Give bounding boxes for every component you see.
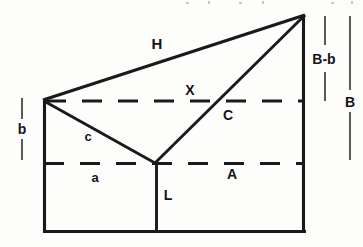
geometry-diagram: b B-b B H X C c a A L: [0, 0, 363, 247]
label-a: a: [91, 170, 99, 185]
interior-lines: [44, 15, 305, 233]
label-X: X: [185, 82, 195, 98]
slant-edge-H: [43, 15, 305, 100]
dimension-B: B: [345, 16, 355, 160]
dimension-B-minus-b: B-b: [312, 16, 335, 101]
dimension-B-label: B: [345, 94, 355, 110]
segment-c: [44, 101, 155, 163]
label-H: H: [152, 35, 163, 52]
label-c: c: [84, 129, 91, 144]
label-C: C: [223, 107, 233, 123]
cropped-caption-artifacts: [186, 1, 353, 4]
segment-C: [155, 15, 305, 163]
label-A: A: [227, 166, 237, 182]
dashed-lines: [44, 101, 304, 164]
dimension-Bb-label: B-b: [312, 51, 335, 67]
diagram-root: b B-b B H X C c a A L: [0, 0, 363, 247]
dimension-b: b: [18, 98, 27, 160]
dimension-b-label: b: [18, 121, 27, 137]
label-L: L: [164, 187, 173, 203]
